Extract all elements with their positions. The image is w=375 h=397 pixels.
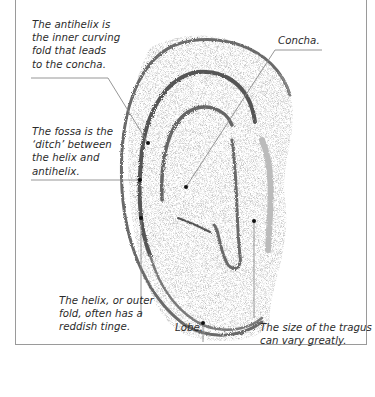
label-helix: The helix, or outer fold, often has a re… (59, 294, 154, 334)
label-fossa: The fossa is the ‘ditch’ between the hel… (32, 125, 113, 178)
label-tragus: The size of the tragus can vary greatly. (260, 321, 372, 347)
label-concha: Concha. (278, 34, 320, 47)
label-lobe: Lobe. (175, 321, 203, 334)
label-antihelix: The antihelix is the inner curving fold … (32, 18, 120, 71)
